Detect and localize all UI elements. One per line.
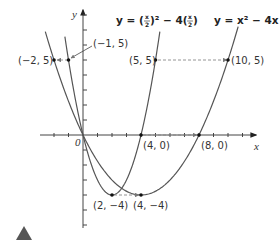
point-label: (5, 5) <box>129 55 156 66</box>
point-label: (8, 0) <box>201 140 228 151</box>
equation-original: y = x² − 4x <box>214 14 279 26</box>
triangle-icon <box>16 226 32 240</box>
origin-label: 0 <box>75 136 81 148</box>
y-axis-label: y <box>71 8 77 20</box>
point-label: (−2, 5) <box>18 55 53 66</box>
svg-text:y = x² − 4x: y = x² − 4x <box>214 14 279 26</box>
svg-text:)² − 4(: )² − 4( <box>150 14 188 26</box>
point-label: (2, −4) <box>93 200 128 211</box>
x-axis-label: x <box>253 140 259 152</box>
graph: x y 0 (−2, 5) (−1, 5) (5, 5) (10, 5) (4,… <box>0 0 279 240</box>
svg-text:2: 2 <box>145 21 149 28</box>
point-label: (4, 0) <box>143 140 170 151</box>
curve-stretched <box>45 27 238 195</box>
point-label: (4, −4) <box>133 200 168 211</box>
svg-text:2: 2 <box>188 21 192 28</box>
svg-text:x: x <box>188 13 192 20</box>
svg-text:x: x <box>145 13 149 20</box>
equation-stretched: y = ( x 2 )² − 4( x 2 ) <box>116 13 198 28</box>
axes <box>40 10 256 228</box>
point-label: (10, 5) <box>231 55 264 66</box>
point-label: (−1, 5) <box>93 38 128 49</box>
leader-line <box>71 46 92 58</box>
svg-text:): ) <box>193 14 198 26</box>
svg-text:y = (: y = ( <box>116 14 144 26</box>
